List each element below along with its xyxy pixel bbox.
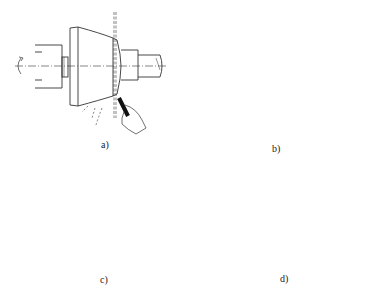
collar <box>62 57 68 77</box>
panel-a <box>15 12 168 134</box>
spindle <box>35 45 62 88</box>
cone-workpiece <box>70 27 113 106</box>
panel-d-label: d) <box>280 273 288 284</box>
panel-b-label: b) <box>272 143 280 154</box>
panel-c-label: c) <box>100 274 108 285</box>
step <box>121 50 138 80</box>
sparks <box>82 106 102 125</box>
panel-a-label: a) <box>101 139 109 150</box>
diagram-canvas <box>0 0 373 297</box>
